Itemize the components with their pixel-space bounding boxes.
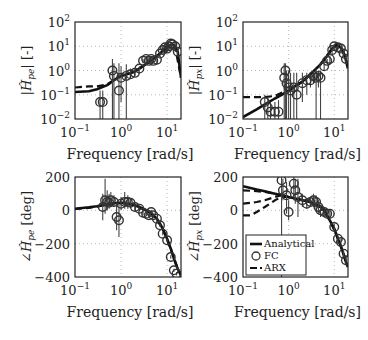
subplot-top-left: 10−110010110210110010−110−2Frequency [ra… [19,13,194,162]
tick-label: 200 [213,170,238,185]
tick-label: −400 [202,270,238,285]
fc-markers [96,39,182,106]
tick-label: 101 [48,37,70,54]
legend-analytical-label: Analytical [263,238,314,249]
axes-frame [75,177,181,277]
tick-label: 101 [156,123,178,140]
fc-markers [98,196,180,278]
x-axis-label: Frequency [rad/s] [234,304,361,320]
tick-label: 10−1 [60,123,90,140]
tick-label: 100 [110,281,133,298]
tick-label: 102 [216,13,238,30]
analytical-line [75,203,181,275]
x-axis-label: Frequency [rad/s] [67,304,194,320]
y-axis-label: |Ĥpx| [-] [187,46,204,96]
subplot-top-right: 10−110010110210110010−110−2Frequency [ra… [187,13,361,162]
y-axis-label: ∠Ĥpx [deg] [187,191,204,263]
tick-label: 101 [216,37,238,54]
grid [75,177,181,277]
legend: AnalyticalFCARX [246,235,314,275]
legend-arx-label: ARX [263,262,287,273]
y-axis-label: ∠Ĥpe [deg] [19,191,36,263]
tick-label: 10−1 [208,86,238,103]
tick-label: 0 [230,203,238,218]
tick-label: 100 [277,123,300,140]
x-axis-label: Frequency [rad/s] [67,146,194,162]
tick-label: 10−1 [228,123,258,140]
bode-figure: 10−110010110210110010−110−2Frequency [ra… [0,0,368,340]
tick-label: 101 [156,281,178,298]
tick-label: −400 [34,270,70,285]
tick-label: 101 [323,281,345,298]
x-axis-label: Frequency [rad/s] [234,146,361,162]
tick-label: −200 [34,237,70,252]
tick-label: 100 [216,62,239,79]
tick-label: 0 [62,203,70,218]
tick-label: 100 [48,62,71,79]
legend-fc-label: FC [264,250,279,261]
tick-label: 102 [48,13,70,30]
tick-label: 100 [277,281,300,298]
grid [243,22,348,119]
y-axis-label: |Ĥpe| [-] [19,46,36,96]
tick-label: −200 [202,237,238,252]
subplot-bottom-left: 10−11001012000−200−400Frequency [rad/s]∠… [19,170,194,320]
tick-label: 200 [45,170,70,185]
tick-label: 101 [323,123,345,140]
tick-label: 100 [110,123,133,140]
subplot-bottom-right: 10−11001012000−200−400Frequency [rad/s]∠… [187,170,361,320]
arx-line [75,203,181,275]
fc-errorbars [103,179,177,276]
tick-label: 10−1 [40,86,70,103]
